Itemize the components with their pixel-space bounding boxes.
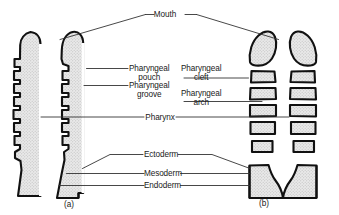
label-pharyngeal-cleft-line1: Pharyngeal (181, 64, 221, 73)
label-mesoderm: Mesoderm (144, 169, 181, 178)
label-mouth: Mouth (143, 10, 187, 19)
label-pharyngeal-groove-line2: groove (129, 90, 169, 99)
caption-panel-b: (b) (259, 199, 269, 208)
leader-mouth-right (197, 15, 279, 40)
label-ectoderm: Ectoderm (144, 150, 178, 159)
caption-panel-a: (a) (64, 200, 74, 209)
leader-mouth-left (60, 15, 146, 40)
right-partial-embryo (283, 32, 317, 198)
pharyngeal-arch-figure: Pharyngeal pouch Pharyngeal groove Phary… (0, 0, 339, 215)
label-pharyngeal-groove: Pharyngeal groove (129, 81, 169, 99)
label-endoderm: Endoderm (144, 181, 181, 190)
leader-ectoderm-right (178, 155, 250, 169)
label-pharyngeal-arch: Pharyngeal arch (181, 89, 221, 107)
label-pharyngeal-cleft: Pharyngeal cleft (181, 64, 221, 82)
label-pharyngeal-groove-line1: Pharyngeal (129, 81, 169, 90)
label-pharyngeal-pouch: Pharyngeal pouch (129, 64, 169, 82)
leader-ectoderm-left (83, 155, 144, 169)
left-partial-embryo (14, 32, 41, 196)
label-pharyngeal-pouch-line1: Pharyngeal (129, 64, 169, 73)
label-pharynx: Pharynx (145, 113, 175, 122)
label-pharyngeal-arch-line2: arch (181, 98, 221, 107)
label-pharyngeal-cleft-line2: cleft (181, 73, 221, 82)
label-pharyngeal-arch-line1: Pharyngeal (181, 89, 221, 98)
panel-b-embryo (250, 32, 284, 198)
